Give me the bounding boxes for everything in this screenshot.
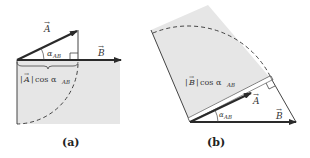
panel-b: A → B → α AB | B → | cos α AB (b) <box>151 5 296 149</box>
caption-b: (b) <box>207 136 225 149</box>
projection-text-b: cos α <box>200 78 222 87</box>
projection-text-a: cos α <box>35 75 57 84</box>
angle-sub-a: AB <box>52 53 61 59</box>
projection-bar-left-a: | <box>20 75 23 84</box>
projection-bar-left-b: | <box>185 78 188 87</box>
projection-arrow-glyph-a: → <box>24 70 29 77</box>
projection-sub-a: AB <box>61 79 70 85</box>
projection-arrow-glyph-b: → <box>189 73 194 80</box>
projection-sub-b: AB <box>226 82 235 88</box>
right-angle-marker-b <box>266 83 275 89</box>
vector-a-arrow-glyph-a: → <box>44 19 50 27</box>
vector-a-arrow-glyph-b: → <box>253 91 259 99</box>
projection-bar-right-a: | <box>31 75 34 84</box>
shaded-region-a <box>17 60 120 124</box>
dot-product-diagram: A → B → α AB | A → | cos α AB (a) A → B … <box>0 0 310 158</box>
angle-arc-a <box>41 48 44 60</box>
projection-bar-right-b: | <box>196 78 199 87</box>
angle-arc-b <box>215 110 218 122</box>
caption-a: (a) <box>62 136 80 149</box>
vector-b-arrow-glyph-b: → <box>276 106 282 114</box>
panel-a: A → B → α AB | A → | cos α AB (a) <box>17 19 121 149</box>
angle-sub-b: AB <box>223 114 232 120</box>
vector-b-arrow-glyph-a: → <box>98 43 104 51</box>
